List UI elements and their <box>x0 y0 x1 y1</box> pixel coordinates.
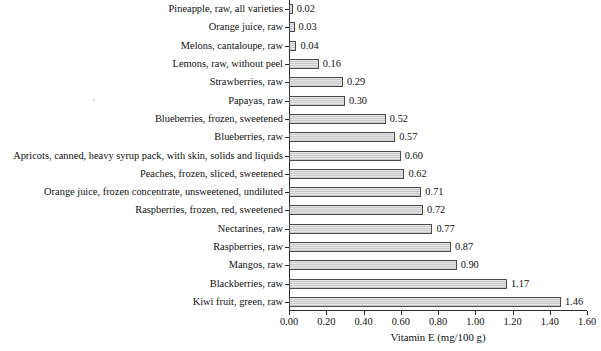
bar-value-label: 0.04 <box>300 40 318 51</box>
bar-value-label: 0.29 <box>347 76 365 87</box>
bar <box>289 132 395 142</box>
bar-row: 1.46 <box>289 297 587 307</box>
y-tick-mark <box>285 46 289 47</box>
y-tick-mark <box>285 210 289 211</box>
bar-row: 1.17 <box>289 279 587 289</box>
bar-value-label: 0.60 <box>405 150 423 161</box>
bar <box>289 22 295 32</box>
bar-value-label: 0.71 <box>425 186 443 197</box>
bar <box>289 151 401 161</box>
bar-row: 0.72 <box>289 205 587 215</box>
bar <box>289 297 561 307</box>
category-label: Blueberries, frozen, sweetened <box>2 113 283 124</box>
y-tick-mark <box>285 9 289 10</box>
category-label: Nectarines, raw <box>2 223 283 234</box>
y-tick-mark <box>285 265 289 266</box>
x-tick-mark <box>513 311 514 315</box>
bar-value-label: 0.90 <box>461 259 479 270</box>
bar-row: 0.62 <box>289 169 587 179</box>
bar-value-label: 0.03 <box>299 21 317 32</box>
bar-value-label: 1.17 <box>511 278 529 289</box>
bar-row: 0.03 <box>289 22 587 32</box>
y-tick-mark <box>285 284 289 285</box>
bar-row: 0.90 <box>289 260 587 270</box>
bar <box>289 59 319 69</box>
x-tick-mark <box>326 311 327 315</box>
bar-value-label: 0.30 <box>349 95 367 106</box>
y-tick-mark <box>285 101 289 102</box>
bar <box>289 96 345 106</box>
category-label: Melons, cantaloupe, raw <box>2 40 283 51</box>
category-label: Papayas, raw <box>2 95 283 106</box>
x-tick-mark <box>550 311 551 315</box>
bar-row: 0.77 <box>289 224 587 234</box>
bar <box>289 224 432 234</box>
bar-row: 0.71 <box>289 187 587 197</box>
category-label: Raspberries, raw <box>2 241 283 252</box>
plot-area: 0.020.030.040.160.290.300.520.570.600.62… <box>289 0 587 311</box>
y-tick-mark <box>285 64 289 65</box>
bar-row: 0.29 <box>289 77 587 87</box>
y-tick-mark <box>285 174 289 175</box>
x-tick-mark <box>438 311 439 315</box>
bar-row: 0.16 <box>289 59 587 69</box>
category-label: Kiwi fruit, green, raw <box>2 296 283 307</box>
x-tick-mark <box>475 311 476 315</box>
bar <box>289 242 451 252</box>
category-label: Lemons, raw, without peel <box>2 58 283 69</box>
bar-value-label: 0.16 <box>323 58 341 69</box>
category-label: Mangos, raw <box>2 259 283 270</box>
bar-row: 0.60 <box>289 151 587 161</box>
bar-value-label: 1.46 <box>565 296 583 307</box>
bar <box>289 169 404 179</box>
category-label: Blueberries, raw <box>2 131 283 142</box>
y-tick-mark <box>285 82 289 83</box>
x-axis-title: Vitamin E (mg/100 g) <box>289 331 587 344</box>
bar-row: 0.30 <box>289 96 587 106</box>
y-tick-mark <box>285 302 289 303</box>
bar <box>289 4 293 14</box>
category-label: Peaches, frozen, sliced, sweetened <box>2 168 283 179</box>
category-axis-labels: Pineapple, raw, all varietiesOrange juic… <box>0 0 283 311</box>
bar <box>289 77 343 87</box>
bar-row: 0.57 <box>289 132 587 142</box>
bar-row: 0.52 <box>289 114 587 124</box>
bar-value-label: 0.57 <box>399 131 417 142</box>
y-tick-mark <box>285 27 289 28</box>
bar-value-label: 0.87 <box>455 241 473 252</box>
bar-value-label: 0.77 <box>436 223 454 234</box>
category-label: Apricots, canned, heavy syrup pack, with… <box>2 150 283 161</box>
bar <box>289 279 507 289</box>
x-tick-label: 1.60 <box>565 316 601 328</box>
bar-value-label: 0.02 <box>297 3 315 14</box>
category-label: Strawberries, raw <box>2 76 283 87</box>
bar <box>289 41 296 51</box>
category-label: Blackberries, raw <box>2 278 283 289</box>
bar-row: 0.87 <box>289 242 587 252</box>
bar <box>289 205 423 215</box>
y-tick-mark <box>285 192 289 193</box>
bar <box>289 260 457 270</box>
bar-value-label: 0.52 <box>390 113 408 124</box>
bar-row: 0.02 <box>289 4 587 14</box>
y-tick-mark <box>285 119 289 120</box>
y-tick-mark <box>285 156 289 157</box>
x-tick-mark <box>401 311 402 315</box>
category-label: Raspberries, frozen, red, sweetened <box>2 204 283 215</box>
x-tick-mark <box>587 311 588 315</box>
bar <box>289 114 386 124</box>
x-tick-mark <box>364 311 365 315</box>
category-label: Pineapple, raw, all varieties <box>2 3 283 14</box>
y-tick-mark <box>285 229 289 230</box>
bar-row: 0.04 <box>289 41 587 51</box>
bar-value-label: 0.72 <box>427 204 445 215</box>
y-tick-mark <box>285 137 289 138</box>
bar <box>289 187 421 197</box>
x-tick-mark <box>289 311 290 315</box>
category-label: Orange juice, frozen concentrate, unswee… <box>2 186 283 197</box>
y-tick-mark <box>285 247 289 248</box>
bar-value-label: 0.62 <box>408 168 426 179</box>
category-label: Orange juice, raw <box>2 21 283 32</box>
